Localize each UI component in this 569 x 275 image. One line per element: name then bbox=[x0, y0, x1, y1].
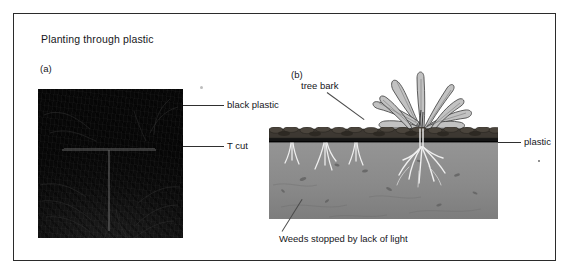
figure-frame: Planting through plastic (a) bbox=[13, 13, 556, 261]
label-tree-bark: tree bark bbox=[301, 80, 339, 91]
page-speck bbox=[538, 160, 540, 162]
plant-foliage bbox=[269, 60, 498, 130]
figure-title: Planting through plastic bbox=[41, 33, 154, 45]
panel-letter-b: (b) bbox=[291, 69, 303, 80]
panel-letter-a: (a) bbox=[40, 63, 52, 74]
photo-black-plastic bbox=[38, 89, 183, 238]
label-plastic: plastic bbox=[524, 136, 551, 147]
leader-line-black-plastic bbox=[183, 105, 224, 106]
leader-line-plastic bbox=[498, 142, 521, 143]
leader-line-tree-bark bbox=[327, 92, 365, 120]
label-weeds-stopped: Weeds stopped by lack of light bbox=[279, 233, 408, 244]
photo-dust-speck bbox=[200, 86, 203, 89]
label-black-plastic: black plastic bbox=[227, 99, 279, 110]
leader-line-t-cut bbox=[183, 146, 224, 147]
soil-cross-section bbox=[269, 127, 498, 219]
label-t-cut: T cut bbox=[227, 140, 248, 151]
photo-creases-and-tcut bbox=[38, 89, 183, 238]
